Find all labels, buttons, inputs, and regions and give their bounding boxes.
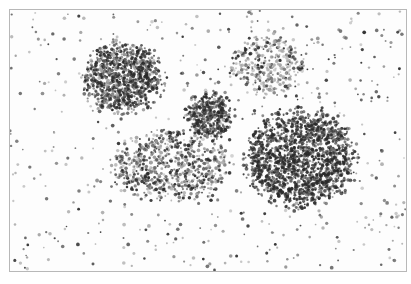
cluster-cell bbox=[163, 173, 166, 176]
cluster-cell bbox=[307, 148, 310, 151]
cluster-cell bbox=[126, 62, 129, 65]
cell bbox=[39, 174, 41, 176]
cluster-cell bbox=[184, 107, 188, 111]
cell bbox=[37, 38, 40, 41]
cluster-cell bbox=[300, 175, 303, 178]
cluster-cell bbox=[177, 131, 181, 135]
cluster-cell bbox=[299, 126, 302, 129]
cluster-cell bbox=[159, 188, 162, 191]
cluster-cell bbox=[247, 79, 249, 81]
cell bbox=[10, 67, 13, 70]
cell bbox=[265, 252, 268, 255]
cluster-cell bbox=[209, 124, 212, 127]
cluster-cell bbox=[216, 133, 219, 136]
cell bbox=[388, 248, 391, 251]
cluster-cell bbox=[274, 157, 277, 160]
cluster-cell bbox=[203, 110, 207, 114]
cluster-cell bbox=[131, 178, 134, 181]
cell bbox=[34, 12, 36, 14]
cluster-cell bbox=[315, 149, 318, 152]
cluster-cell bbox=[318, 161, 320, 163]
cluster-cell bbox=[300, 145, 302, 147]
cluster-cell bbox=[142, 61, 145, 64]
cell bbox=[66, 157, 69, 160]
cluster-cell bbox=[115, 84, 118, 87]
cluster-cell bbox=[223, 156, 225, 158]
cell bbox=[87, 232, 89, 234]
cluster-cell bbox=[332, 163, 335, 166]
cluster-cell bbox=[269, 48, 272, 51]
cluster-cell bbox=[86, 66, 88, 68]
cell bbox=[372, 219, 374, 221]
cell bbox=[204, 58, 207, 61]
cluster-cell bbox=[349, 146, 351, 148]
cluster-cell bbox=[226, 118, 229, 121]
cluster-cell bbox=[159, 199, 161, 201]
cell bbox=[337, 240, 340, 243]
cluster-cell bbox=[320, 192, 324, 196]
cluster-cell bbox=[286, 142, 289, 145]
cluster-cell bbox=[301, 161, 303, 163]
cell bbox=[300, 54, 302, 56]
cluster-cell bbox=[256, 73, 259, 76]
cluster-cell bbox=[192, 118, 195, 121]
cluster-cell bbox=[214, 120, 216, 122]
cluster-cell bbox=[129, 104, 131, 106]
cell bbox=[330, 266, 334, 270]
cell bbox=[195, 15, 199, 19]
cell bbox=[349, 46, 351, 48]
cluster-cell bbox=[197, 129, 200, 132]
cluster-cell bbox=[126, 78, 128, 80]
cluster-cell bbox=[263, 189, 266, 192]
cluster-cell bbox=[119, 167, 122, 170]
cluster-cell bbox=[287, 173, 289, 175]
cluster-cell bbox=[195, 115, 198, 118]
cell bbox=[24, 267, 26, 269]
cluster-cell bbox=[96, 108, 99, 111]
cluster-cell bbox=[272, 74, 274, 76]
cluster-cell bbox=[287, 159, 289, 161]
cell bbox=[246, 177, 248, 179]
cluster-cell bbox=[182, 132, 185, 135]
cluster-cell bbox=[220, 177, 224, 181]
cluster-cell bbox=[142, 95, 145, 98]
cluster-cell bbox=[115, 43, 117, 45]
cell bbox=[92, 262, 95, 265]
cluster-cell bbox=[140, 44, 143, 47]
cluster-cell bbox=[325, 125, 327, 127]
cluster-cell bbox=[113, 112, 116, 115]
cluster-cell bbox=[128, 101, 131, 104]
cell bbox=[375, 176, 378, 179]
cluster-cell bbox=[276, 180, 279, 183]
cell bbox=[11, 13, 13, 15]
cluster-cell bbox=[246, 91, 248, 93]
cluster-cell bbox=[223, 100, 225, 102]
cluster-cell bbox=[257, 193, 259, 195]
cell bbox=[400, 33, 404, 37]
cluster-cell bbox=[265, 144, 268, 147]
cluster-cell bbox=[197, 165, 200, 168]
cell bbox=[276, 247, 278, 249]
cluster-cell bbox=[296, 66, 300, 70]
cluster-cell bbox=[325, 163, 328, 166]
cluster-cell bbox=[187, 173, 191, 177]
cluster-cell bbox=[213, 98, 216, 101]
cluster-cell bbox=[136, 78, 140, 82]
cluster-cell bbox=[201, 137, 205, 141]
cluster-cell bbox=[269, 189, 272, 192]
cluster-cell bbox=[322, 164, 324, 166]
cell bbox=[28, 51, 31, 54]
cluster-cell bbox=[149, 192, 152, 195]
cluster-cell bbox=[314, 203, 316, 205]
cluster-cell bbox=[277, 134, 279, 136]
cell bbox=[47, 43, 49, 45]
cluster-cell bbox=[97, 76, 101, 80]
cluster-cell bbox=[277, 45, 280, 48]
cluster-cell bbox=[275, 178, 278, 181]
cluster-cell bbox=[338, 177, 340, 179]
cluster-cell bbox=[290, 48, 293, 51]
cluster-cell bbox=[219, 156, 223, 160]
cell bbox=[361, 48, 364, 51]
cluster-cell bbox=[259, 136, 262, 139]
cell bbox=[38, 233, 41, 236]
